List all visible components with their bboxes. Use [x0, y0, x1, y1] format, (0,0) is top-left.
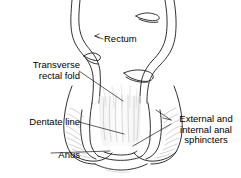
anal-canal-lumen	[99, 96, 141, 146]
label-anal-sphincters: External and internal anal sphincters	[172, 114, 240, 146]
rectal-wall-left	[71, 0, 101, 103]
label-rectum: Rectum	[104, 34, 154, 45]
perianal-shading	[100, 166, 130, 172]
transverse-rectal-fold-structure	[124, 70, 153, 82]
label-anus: Anus	[18, 150, 80, 161]
label-transverse-rectal-fold: Transverse rectal fold	[2, 60, 80, 81]
label-dentate-line: Dentate line	[2, 117, 80, 128]
rectal-wall-right	[124, 0, 176, 103]
anatomy-figure: Rectum Transverse rectal fold Dentate li…	[0, 0, 241, 178]
leader-rectum-arrow-a	[95, 34, 99, 36]
